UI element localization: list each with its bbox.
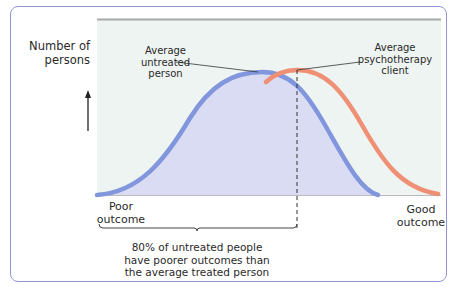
- untreated-annotation-line3: person: [128, 68, 203, 80]
- y-axis-label: Number of persons: [20, 39, 90, 67]
- bracket-annotation-line2: have poorer outcomes than: [122, 254, 272, 267]
- y-axis-label-line2: persons: [20, 53, 90, 67]
- untreated-annotation: Average untreated person: [128, 45, 203, 80]
- up-arrow-icon: [85, 90, 91, 98]
- poor-outcome-line1: Poor: [96, 200, 146, 213]
- good-outcome-line1: Good: [395, 203, 447, 216]
- client-annotation: Average psychotherapy client: [355, 42, 435, 77]
- bracket-annotation-line1: 80% of untreated people: [122, 241, 272, 254]
- client-annotation-line3: client: [355, 65, 435, 77]
- client-annotation-line1: Average: [355, 42, 435, 54]
- bracket-annotation-line3: the average treated person: [122, 266, 272, 279]
- good-outcome-label: Good outcome: [395, 203, 447, 229]
- y-axis-label-line1: Number of: [20, 39, 90, 53]
- good-outcome-line2: outcome: [395, 216, 447, 229]
- untreated-annotation-line2: untreated: [128, 57, 203, 69]
- poor-outcome-line2: outcome: [96, 213, 146, 226]
- bracket-annotation: 80% of untreated people have poorer outc…: [122, 241, 272, 279]
- poor-outcome-label: Poor outcome: [96, 200, 146, 226]
- client-annotation-line2: psychotherapy: [355, 54, 435, 66]
- untreated-annotation-line1: Average: [128, 45, 203, 57]
